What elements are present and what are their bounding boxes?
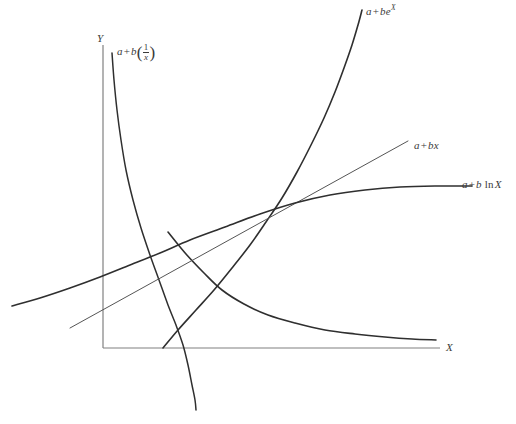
y-axis-label: Y xyxy=(97,32,103,44)
linear-variable: x xyxy=(434,139,439,151)
reciprocal-fraction: 1x xyxy=(143,43,150,63)
log-coefficient: b xyxy=(476,178,482,190)
reciprocal-operator: + xyxy=(123,45,131,57)
curve-linear xyxy=(70,141,408,328)
log-function: ln xyxy=(482,178,495,190)
exponential-prefix: a xyxy=(366,5,372,17)
curve-label-logarithmic: a+blnX xyxy=(462,178,502,190)
log-operator: + xyxy=(468,178,476,190)
curve-reciprocal xyxy=(112,53,196,410)
reciprocal-prefix: a xyxy=(117,45,123,57)
plot-canvas xyxy=(0,0,516,424)
linear-operator: + xyxy=(420,139,428,151)
curve-exponential xyxy=(163,10,362,348)
curve-logarithmic xyxy=(12,186,472,306)
curve-label-linear: a+bx xyxy=(414,139,439,151)
curve-label-exponential: a+beX xyxy=(366,3,396,17)
right-paren: ) xyxy=(149,43,155,62)
log-variable: X xyxy=(495,178,502,190)
reciprocal-numerator: 1 xyxy=(143,43,150,52)
x-axis-label: X xyxy=(446,341,453,353)
reciprocal-denominator: x xyxy=(143,52,150,62)
regression-curves-figure: Y X a+b(1x) a+beX a+bx a+blnX xyxy=(0,0,516,424)
curve-label-reciprocal: a+b(1x) xyxy=(117,43,155,63)
exponential-exponent: X xyxy=(391,3,396,12)
curve-reciprocal-tail xyxy=(168,232,436,340)
linear-prefix: a xyxy=(414,139,420,151)
exponential-operator: + xyxy=(372,5,380,17)
log-prefix: a xyxy=(462,178,468,190)
